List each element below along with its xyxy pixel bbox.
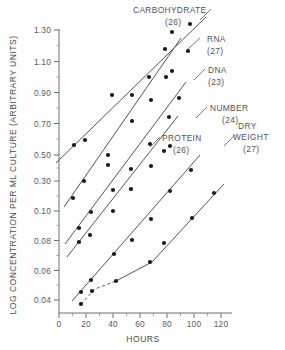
y-tick-label: 0.30 [34, 176, 51, 186]
x-tick-label: 20 [81, 319, 91, 329]
y-tick-label: 0.90 [34, 88, 51, 98]
data-point [110, 93, 114, 97]
data-point [129, 187, 133, 191]
data-point [149, 98, 153, 102]
data-point [129, 167, 133, 171]
data-point [188, 22, 192, 26]
x-tick-label: 80 [162, 319, 172, 329]
series-label-rna: RNA (27) [207, 34, 226, 56]
data-point [79, 290, 83, 294]
data-point [149, 217, 153, 221]
data-point [79, 302, 83, 306]
data-point [114, 279, 118, 283]
y-tick-label: 1.10 [34, 57, 51, 67]
series-label-value: (26) [173, 145, 189, 155]
data-point [167, 115, 171, 119]
x-axis-tick-labels: 0 20 40 60 80 100 120 [57, 319, 229, 329]
series-label-dna: DNA (23) [208, 65, 227, 87]
y-axis-title: LOG CONCENTRATION PER ML CULTURE (ARBITR… [8, 36, 18, 315]
data-point [106, 153, 110, 157]
series-label-text: PROTEIN [162, 133, 202, 143]
x-tick-label: 100 [187, 319, 202, 329]
series-label-text: NUMBER [210, 103, 248, 113]
series-dry-weight [79, 184, 224, 306]
data-point [149, 164, 153, 168]
data-point [162, 149, 166, 153]
data-point [147, 75, 151, 79]
y-tick-label: 0.50 [34, 150, 51, 160]
data-point [163, 47, 167, 51]
data-point [111, 209, 115, 213]
series-label-value: (23) [208, 77, 224, 87]
y-tick-label: 1.30 [34, 25, 51, 35]
chart-plot-area: 1.30 1.10 0.90 0.70 0.50 0.30 0.10 0.08 … [0, 0, 285, 350]
data-point [148, 260, 152, 264]
data-point [111, 188, 115, 192]
data-point [130, 119, 134, 123]
data-point [89, 278, 93, 282]
series-label-value: (24) [222, 115, 238, 125]
series-label-value: (27) [243, 144, 259, 154]
data-point [77, 226, 81, 230]
chart-figure: 1.30 1.10 0.90 0.70 0.50 0.30 0.10 0.08 … [0, 0, 285, 350]
series-label-value: (27) [207, 46, 223, 56]
data-point [190, 216, 194, 220]
data-point [130, 93, 134, 97]
y-tick-label: 0.08 [34, 236, 51, 246]
data-point [212, 191, 216, 195]
series-dna [65, 82, 186, 244]
series-label-dry-weight: DRY WEIGHT (27) [233, 121, 269, 154]
series-label-text: CARBOHYDRATE [133, 5, 206, 15]
y-axis-ticks [54, 30, 59, 300]
y-tick-label: 0.70 [34, 119, 51, 129]
data-point [186, 49, 190, 53]
series-number [72, 155, 200, 301]
data-point [89, 210, 93, 214]
data-point [170, 69, 174, 73]
data-point [177, 96, 181, 100]
x-axis-title: HOURS [126, 334, 159, 344]
data-point [106, 163, 110, 167]
series-label-text: DRY [238, 121, 257, 131]
data-point [83, 138, 87, 142]
data-point [170, 30, 174, 34]
data-point [88, 233, 92, 237]
data-point [90, 289, 94, 293]
x-tick-label: 120 [214, 319, 229, 329]
data-point [112, 252, 116, 256]
series-rna [64, 38, 190, 207]
data-point [162, 241, 166, 245]
data-point [189, 168, 193, 172]
series-label-carbohydrate: CARBOHYDRATE (26) [133, 5, 206, 27]
data-point [130, 238, 134, 242]
x-tick-label: 40 [108, 319, 118, 329]
y-tick-label: 0.04 [34, 295, 51, 305]
leader-number [196, 107, 207, 118]
series-label-text: DNA [208, 65, 227, 75]
y-tick-label: 0.06 [34, 266, 51, 276]
y-axis-tick-labels: 1.30 1.10 0.90 0.70 0.50 0.30 0.10 0.08 … [34, 25, 51, 305]
leader-dna [194, 69, 205, 80]
series-label-text: RNA [207, 34, 226, 44]
leader-rna [188, 38, 200, 49]
series-label-protein: PROTEIN (26) [162, 133, 202, 155]
x-axis-ticks [59, 313, 221, 318]
data-point [77, 240, 81, 244]
data-point [168, 189, 172, 193]
data-point [71, 196, 75, 200]
data-point [168, 144, 172, 148]
data-point [82, 179, 86, 183]
y-tick-label: 0.10 [34, 206, 51, 216]
data-point [72, 143, 76, 147]
series-label-value: (26) [165, 17, 181, 27]
x-tick-label: 0 [57, 319, 62, 329]
data-point [164, 75, 168, 79]
x-tick-label: 60 [135, 319, 145, 329]
series-label-text-2: WEIGHT [233, 132, 269, 142]
